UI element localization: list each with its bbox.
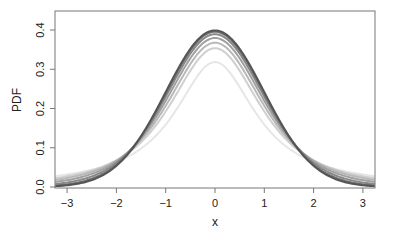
y-tick-label: 0.0 xyxy=(34,179,46,194)
x-tick-label: 3 xyxy=(360,197,366,209)
pdf-curve xyxy=(55,38,374,182)
pdf-curve xyxy=(55,48,374,178)
x-axis-title: x xyxy=(212,215,218,229)
pdf-curve xyxy=(55,30,374,186)
curve-group xyxy=(55,30,374,186)
y-tick-label: 0.2 xyxy=(34,101,46,116)
x-tick-label: −2 xyxy=(110,197,123,209)
y-axis: 0.00.10.20.30.4 xyxy=(34,22,55,194)
y-tick-label: 0.1 xyxy=(34,140,46,155)
x-tick-label: 1 xyxy=(261,197,267,209)
pdf-curve xyxy=(55,32,374,186)
x-axis: −3−2−10123 xyxy=(61,188,366,209)
y-tick-label: 0.4 xyxy=(34,22,46,37)
pdf-curve xyxy=(55,62,374,176)
pdf-curve xyxy=(55,43,374,180)
x-tick-label: 2 xyxy=(311,197,317,209)
y-axis-title: PDF xyxy=(10,88,24,112)
x-tick-label: 0 xyxy=(212,197,218,209)
x-tick-label: −1 xyxy=(159,197,172,209)
x-tick-label: −3 xyxy=(61,197,74,209)
y-tick-label: 0.3 xyxy=(34,62,46,77)
pdf-curve xyxy=(55,34,374,184)
pdf-chart: −3−2−10123 0.00.10.20.30.4 x PDF xyxy=(0,0,395,238)
